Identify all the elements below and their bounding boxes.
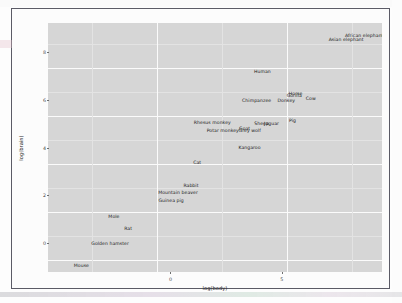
x-tick-label: 5 (280, 277, 283, 282)
y-tick-label: 2 (43, 193, 46, 198)
data-point-label: Sheep (254, 121, 269, 126)
scan-artifact-right (392, 0, 402, 303)
data-point-label: Cow (306, 95, 316, 100)
gridline-major-x-5 (287, 23, 288, 272)
y-tick-mark (47, 195, 49, 196)
gridline-minor-y (48, 140, 382, 141)
scanned-page: African elephantAsian elephantHumanGoril… (0, 0, 402, 303)
gridline-minor-y (48, 188, 382, 189)
data-point-label: Mountain beaver (158, 190, 198, 195)
y-tick-label: 0 (43, 241, 46, 246)
data-point-label: Cat (193, 159, 201, 164)
chart-card: African elephantAsian elephantHumanGoril… (11, 8, 390, 289)
x-axis-title: log(body) (203, 285, 228, 291)
data-point-label: Goat (239, 126, 250, 131)
data-point-label: Golden hamster (91, 241, 129, 246)
x-tick-label: 0 (169, 277, 172, 282)
gridline-minor-x (222, 23, 223, 272)
x-tick-mark (170, 272, 171, 274)
y-tick-mark (47, 148, 49, 149)
data-point-label: Mole (108, 214, 119, 219)
y-axis-title: log(brain) (18, 135, 24, 160)
gridline-minor-x (92, 23, 93, 272)
gridline-major-y-8 (48, 68, 382, 69)
data-point-label: Pig (289, 118, 296, 123)
y-axis: 02468 (32, 23, 46, 272)
data-point-label: Rat (124, 225, 132, 230)
data-point-label: Chimpanzee (242, 98, 271, 103)
gridline-minor-y (48, 92, 382, 93)
data-point-label: Rhesus monkey (194, 120, 231, 125)
data-point-label: Horse (289, 90, 303, 95)
y-tick-mark (47, 243, 49, 244)
gridline-major-y-0 (48, 260, 382, 261)
plot-panel: African elephantAsian elephantHumanGoril… (48, 23, 382, 272)
scan-artifact-bottom (0, 292, 402, 297)
gridline-minor-y (48, 44, 382, 45)
gridline-major-y-2 (48, 212, 382, 213)
data-point-label: Guinea pig (158, 198, 183, 203)
scan-artifact-top (0, 0, 402, 7)
y-tick-label: 8 (43, 49, 46, 54)
data-point-label: Human (254, 69, 271, 74)
y-tick-label: 4 (43, 145, 46, 150)
gridline-minor-y (48, 236, 382, 237)
gridline-minor-x (352, 23, 353, 272)
gridline-major-y-6 (48, 116, 382, 117)
y-tick-label: 6 (43, 97, 46, 102)
y-tick-mark (47, 100, 49, 101)
gridline-major-y-4 (48, 164, 382, 165)
data-point-label: Donkey (277, 97, 295, 102)
data-point-label: Kangaroo (238, 145, 260, 150)
data-point-label: Potar monkey (207, 128, 239, 133)
data-point-label: Rabbit (183, 182, 198, 187)
gridline-major-x-0 (157, 23, 158, 272)
data-point-label: Mouse (74, 263, 89, 268)
data-point-label: Asian elephant (329, 37, 364, 42)
y-tick-mark (47, 52, 49, 53)
x-tick-mark (282, 272, 283, 274)
